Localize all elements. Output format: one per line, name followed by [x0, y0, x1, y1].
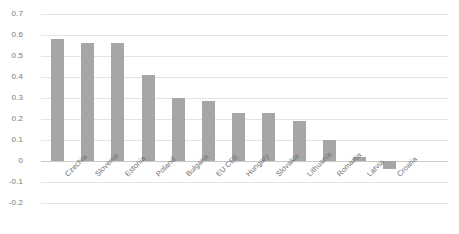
- x-axis-tick-label: Latvia: [365, 157, 386, 178]
- x-axis-tick-label: Romania: [335, 150, 363, 178]
- x-axis-tick-label: Hungary: [244, 151, 271, 178]
- bar-chart: 0.70.60.50.40.30.20.10-0.1-0.2 CzechiaSl…: [0, 0, 459, 234]
- y-axis-tick-label: 0: [0, 157, 23, 165]
- x-axis-tick-label: Bulgaria: [184, 152, 210, 178]
- y-axis-tick-label: 0.7: [0, 10, 23, 18]
- x-axis-tick-label: Czechia: [63, 152, 89, 178]
- y-axis-tick-label: 0.4: [0, 73, 23, 81]
- y-axis-tick-label: 0.1: [0, 136, 23, 144]
- y-axis-tick-label: -0.1: [0, 178, 23, 186]
- y-axis-tick-label: 0.6: [0, 31, 23, 39]
- x-axis-tick-label: Croatia: [395, 154, 419, 178]
- plot-area: 0.70.60.50.40.30.20.10-0.1-0.2 CzechiaSl…: [41, 0, 448, 234]
- x-axis-tick-label: Estonia: [123, 154, 148, 179]
- x-axis-tick-labels: CzechiaSloveniaEstoniaPolandBulgariaEU C…: [41, 0, 448, 234]
- y-axis-tick-label: 0.3: [0, 94, 23, 102]
- y-axis-tick-label: 0.5: [0, 52, 23, 60]
- x-axis-tick-label: Lithuania: [305, 150, 334, 179]
- x-axis-tick-label: Slovakia: [274, 151, 301, 178]
- y-axis-tick-label: 0.2: [0, 115, 23, 123]
- x-axis-tick-label: EU CEE: [214, 152, 241, 179]
- y-axis-tick-label: -0.2: [0, 199, 23, 207]
- x-axis-tick-label: Slovenia: [93, 151, 120, 178]
- x-axis-tick-label: Poland: [154, 155, 177, 178]
